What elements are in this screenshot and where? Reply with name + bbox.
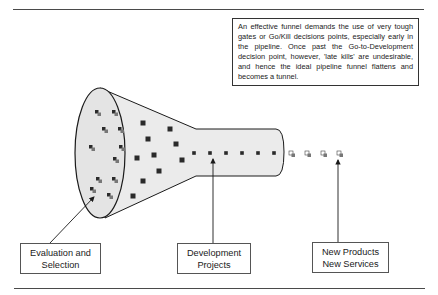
idea-square-icon (99, 180, 103, 184)
project-square-icon (152, 153, 157, 158)
idea-square-icon (92, 148, 96, 152)
idea-square-icon (116, 160, 120, 164)
label-line: New Products (317, 246, 384, 258)
label-line: Evaluation and (25, 247, 96, 259)
funnel-mouth-ellipse (75, 88, 125, 218)
idea-square-icon (115, 180, 119, 184)
product-square-icon (340, 154, 344, 158)
project-square-icon (141, 179, 146, 184)
idea-square-icon (121, 130, 125, 134)
project-square-icon (256, 151, 260, 155)
idea-square-icon (98, 113, 102, 117)
idea-square-icon (110, 196, 114, 200)
idea-square-icon (93, 190, 97, 194)
project-square-icon (157, 169, 162, 174)
project-square-icon (174, 142, 179, 147)
project-square-icon (131, 194, 136, 199)
project-square-icon (192, 151, 196, 155)
product-square-icon (292, 154, 296, 158)
project-square-icon (208, 151, 212, 155)
project-square-icon (146, 137, 151, 142)
product-square-icon (308, 154, 312, 158)
label-line: New Services (317, 258, 384, 270)
product-icons (289, 151, 343, 157)
idea-square-icon (105, 130, 109, 134)
project-square-icon (141, 121, 146, 126)
project-square-icon (168, 127, 173, 132)
label-line: Selection (25, 259, 96, 271)
project-square-icon (240, 151, 244, 155)
project-square-icon (224, 151, 228, 155)
project-square-icon (180, 158, 185, 163)
idea-square-icon (122, 148, 126, 152)
project-square-icon (135, 156, 140, 161)
arrow-evaluation-icon (50, 197, 94, 243)
label-evaluation-selection: Evaluation and Selection (20, 243, 101, 274)
label-new-products-services: New Products New Services (312, 242, 389, 273)
idea-square-icon (115, 113, 119, 117)
label-line: Development (182, 247, 246, 259)
project-square-icon (272, 151, 276, 155)
label-development-projects: Development Projects (177, 243, 251, 274)
explanation-note: An effective funnel demands the use of v… (232, 18, 419, 86)
product-square-icon (324, 154, 328, 158)
label-line: Projects (182, 259, 246, 271)
